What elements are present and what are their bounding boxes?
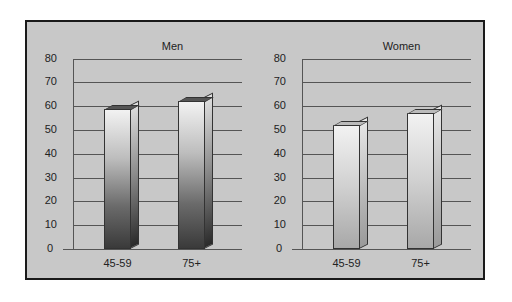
y-tick-label: 50: [33, 123, 57, 135]
gridline: [302, 130, 471, 131]
bar-front-face: [407, 113, 434, 249]
gridline: [73, 82, 242, 83]
bar-side-face: [433, 105, 442, 249]
x-axis-line: [63, 249, 242, 250]
bar-75plus: [407, 109, 442, 249]
gridline: [73, 178, 242, 179]
gridline: [73, 225, 242, 226]
y-tick-label: 0: [29, 242, 53, 254]
x-tick-label: 75+: [167, 257, 217, 269]
chart-title: Men: [73, 40, 272, 52]
bar-side-face: [359, 117, 368, 249]
bar-front-face: [104, 109, 131, 249]
chart-frame: Men0102030405060708045-5975+ Women010203…: [25, 20, 485, 280]
bar-side-face: [204, 93, 213, 249]
gridline: [302, 59, 471, 60]
bar-75plus: [178, 97, 213, 249]
y-tick-label: 10: [262, 218, 286, 230]
y-tick-label: 70: [33, 75, 57, 87]
bar-side-face: [130, 100, 139, 249]
gridline: [73, 106, 242, 107]
gridline: [302, 82, 471, 83]
y-tick-label: 80: [262, 52, 286, 64]
gridline: [302, 178, 471, 179]
y-tick-label: 40: [33, 147, 57, 159]
x-axis-line: [292, 249, 471, 250]
gridline: [302, 201, 471, 202]
gridline: [73, 154, 242, 155]
gridline: [302, 154, 471, 155]
bar-front-face: [333, 125, 360, 249]
gridline: [73, 130, 242, 131]
y-tick-label: 80: [33, 52, 57, 64]
y-tick-label: 20: [262, 194, 286, 206]
chart-title: Women: [302, 40, 501, 52]
x-tick-label: 45-59: [93, 257, 143, 269]
gridline: [73, 201, 242, 202]
x-tick-label: 45-59: [322, 257, 372, 269]
bar-45-59: [104, 105, 139, 249]
y-tick-label: 0: [258, 242, 282, 254]
y-tick-label: 60: [33, 99, 57, 111]
y-tick-label: 30: [262, 171, 286, 183]
y-tick-label: 10: [33, 218, 57, 230]
y-tick-label: 40: [262, 147, 286, 159]
y-tick-label: 30: [33, 171, 57, 183]
y-tick-label: 50: [262, 123, 286, 135]
gridline: [73, 59, 242, 60]
bar-front-face: [178, 101, 205, 249]
gridline: [302, 106, 471, 107]
gridline: [302, 225, 471, 226]
women-chart-panel: Women0102030405060708045-5975+: [256, 22, 486, 278]
x-tick-label: 75+: [396, 257, 446, 269]
men-chart-panel: Men0102030405060708045-5975+: [27, 22, 257, 278]
bar-45-59: [333, 121, 368, 249]
y-tick-label: 60: [262, 99, 286, 111]
y-tick-label: 70: [262, 75, 286, 87]
y-tick-label: 20: [33, 194, 57, 206]
